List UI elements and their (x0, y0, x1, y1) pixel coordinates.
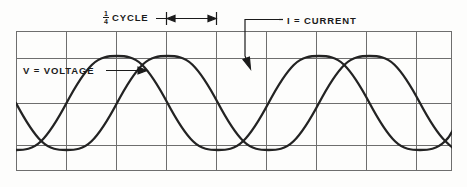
cycle-arrow-right-icon (208, 15, 216, 21)
voltage-label: V = VOLTAGE (23, 66, 95, 76)
current-label: I = CURRENT (287, 16, 357, 26)
fraction-numerator: 1 (103, 10, 109, 17)
fraction-denominator: 4 (103, 18, 109, 25)
waveform-figure: 1 4 CYCLE V = VOLTAGE I = CURRENT (0, 0, 467, 187)
cycle-arrow-left-icon (167, 15, 175, 21)
current-leader-path (245, 20, 280, 64)
current-arrow-icon (243, 57, 251, 69)
cycle-word-label: CYCLE (112, 12, 149, 23)
annotation-layer (0, 0, 467, 187)
cycle-annotation-label: 1 4 CYCLE (103, 10, 149, 26)
quarter-fraction: 1 4 (103, 10, 109, 26)
voltage-arrow-icon (138, 67, 147, 74)
